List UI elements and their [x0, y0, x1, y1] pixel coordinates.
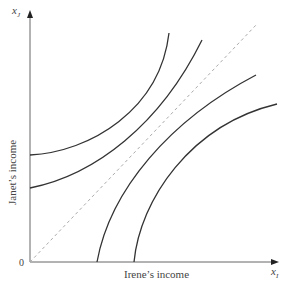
upper-left-curve-1: [30, 33, 169, 155]
y-axis-label: Janet’s income: [6, 140, 18, 205]
indifference-diagram: [0, 0, 299, 294]
y-axis-symbol: xJ: [12, 4, 20, 19]
lower-right-curve-1: [97, 75, 256, 262]
lower-right-curve-2: [134, 104, 277, 262]
x-axis-label: Irene’s income: [124, 268, 189, 280]
equality-diagonal: [30, 24, 257, 262]
origin-label: 0: [19, 257, 24, 268]
x-axis-symbol: xI: [271, 265, 278, 280]
y-axis-arrow-icon: [27, 10, 33, 18]
